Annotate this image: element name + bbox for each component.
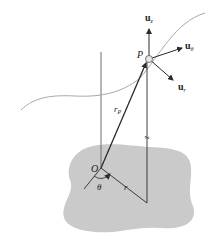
label-theta: θ	[97, 182, 102, 192]
unit-vector-ur	[149, 59, 173, 80]
label-uz: uz	[145, 12, 154, 24]
label-utheta: uθ	[185, 40, 194, 52]
point-p	[146, 56, 153, 63]
label-r: r	[124, 182, 128, 192]
label-rp: rP	[114, 104, 122, 115]
diagram-canvas: uz uθ ur P O rP z r θ	[0, 0, 212, 241]
cylindrical-coordinates-diagram: uz uθ ur P O rP z r θ	[0, 0, 212, 241]
label-origin: O	[91, 163, 98, 174]
label-ur: ur	[178, 81, 187, 93]
label-z: z	[143, 135, 152, 140]
unit-vector-utheta	[149, 48, 182, 59]
path-curve	[21, 13, 205, 110]
reference-plane	[63, 144, 194, 232]
label-point-p: P	[136, 49, 143, 60]
